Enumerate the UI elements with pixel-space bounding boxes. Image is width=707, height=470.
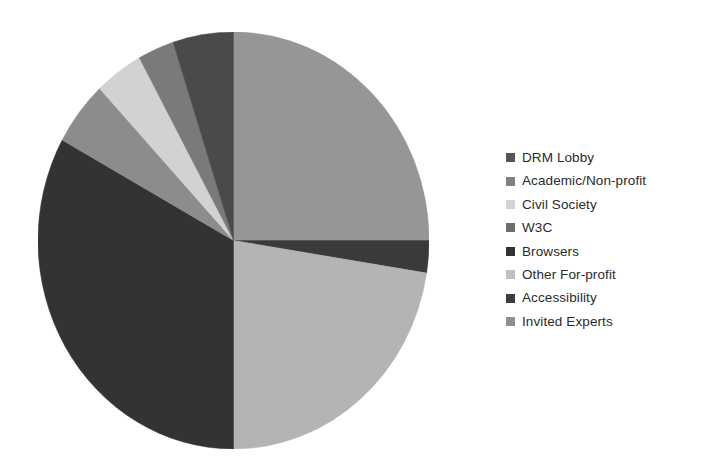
legend-swatch-icon	[506, 223, 515, 232]
legend-item: DRM Lobby	[506, 146, 696, 169]
pie-chart-svg	[38, 32, 429, 449]
pie-chart-figure: DRM LobbyAcademic/Non-profitCivil Societ…	[0, 0, 707, 470]
pie-slice-group	[38, 32, 429, 449]
legend-item-label: Civil Society	[522, 198, 597, 212]
legend-item-label: Browsers	[522, 245, 579, 259]
legend-item-label: Accessibility	[522, 291, 597, 305]
pie-chart-area	[38, 32, 429, 449]
legend-item-label: DRM Lobby	[522, 151, 594, 165]
legend-swatch-icon	[506, 153, 515, 162]
legend-item: Academic/Non-profit	[506, 169, 696, 192]
legend-item: W3C	[506, 216, 696, 239]
legend-item: Accessibility	[506, 286, 696, 309]
legend-item: Browsers	[506, 240, 696, 263]
legend-item-label: Other For-profit	[522, 268, 616, 282]
legend-item-label: Invited Experts	[522, 315, 613, 329]
legend-swatch-icon	[506, 294, 515, 303]
legend-swatch-icon	[506, 200, 515, 209]
legend-swatch-icon	[506, 177, 515, 186]
legend-swatch-icon	[506, 270, 515, 279]
legend-item-label: Academic/Non-profit	[522, 174, 646, 188]
chart-legend: DRM LobbyAcademic/Non-profitCivil Societ…	[506, 146, 696, 333]
legend-item-label: W3C	[522, 221, 552, 235]
pie-slice	[234, 32, 430, 241]
legend-swatch-icon	[506, 317, 515, 326]
legend-item: Other For-profit	[506, 263, 696, 286]
pie-slice	[234, 241, 427, 450]
legend-item: Invited Experts	[506, 310, 696, 333]
legend-swatch-icon	[506, 247, 515, 256]
legend-item: Civil Society	[506, 193, 696, 216]
